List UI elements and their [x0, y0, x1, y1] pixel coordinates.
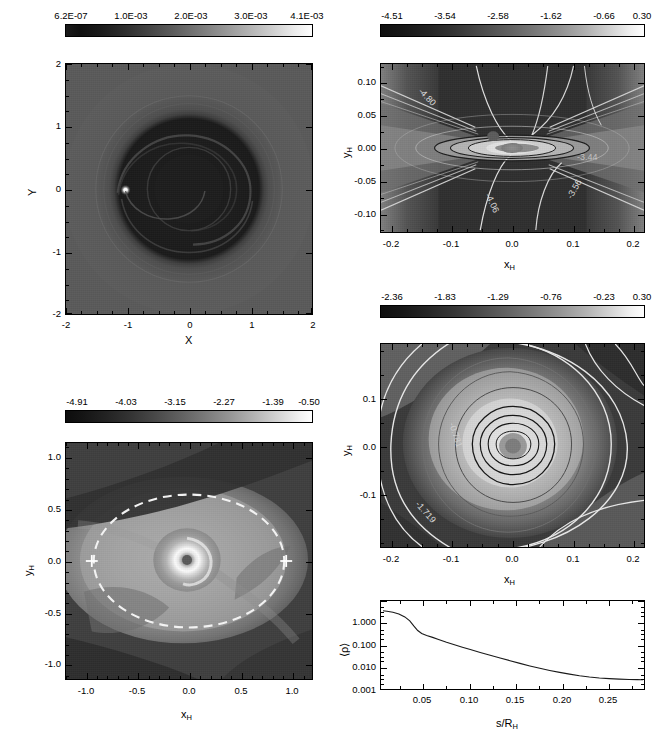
axis-tick [392, 344, 393, 350]
x-ticklabel: 0.10 [460, 695, 479, 705]
axis-tick [231, 443, 232, 446]
axis-tick [118, 443, 119, 446]
colorbar-tick: -4.91 [66, 396, 88, 407]
axis-tick [467, 344, 468, 347]
axis-tick [452, 344, 453, 350]
axis-tick [381, 132, 384, 133]
axis-tick [641, 351, 644, 352]
x-ticklabel: 0.15 [506, 695, 525, 705]
axis-tick [66, 447, 69, 448]
axis-tick [221, 64, 222, 67]
x-ticklabel: 1.0 [285, 686, 298, 696]
axis-tick [407, 64, 408, 67]
x-ticklabel: -0.2 [383, 239, 399, 249]
axis-tick [470, 601, 471, 606]
axis-tick [437, 544, 438, 547]
axis-tick [66, 96, 69, 97]
axis-tick [66, 500, 69, 501]
axis-tick [66, 443, 67, 446]
axis-tick [381, 375, 384, 376]
axis-tick [574, 344, 575, 350]
axis-tick [66, 510, 72, 511]
axis-tick [66, 479, 69, 480]
axis-tick [211, 676, 212, 679]
axis-tick [634, 541, 635, 547]
axis-tick [563, 684, 564, 689]
axis-tick [66, 313, 72, 314]
axis-tick [446, 601, 447, 604]
axis-tick [306, 510, 312, 511]
axis-tick [634, 226, 635, 232]
axis-tick [638, 495, 644, 496]
axis-tick [543, 344, 544, 347]
axis-tick [407, 344, 408, 347]
axis-tick [107, 676, 108, 679]
axis-tick [528, 344, 529, 347]
axis-tick [66, 531, 69, 532]
x-ticklabel: -0.1 [443, 239, 459, 249]
axis-tick [641, 652, 644, 653]
axis-tick [604, 229, 605, 232]
axis-tick [381, 198, 384, 199]
axis-tick [381, 447, 387, 448]
axis-tick [200, 443, 201, 446]
axis-tick [619, 64, 620, 67]
y-axis-label: yH [340, 445, 354, 456]
axis-tick [273, 443, 274, 446]
axis-tick [381, 351, 384, 352]
axis-tick [211, 443, 212, 446]
y-axis-label-sub: H [345, 445, 354, 450]
axis-tick [604, 344, 605, 347]
colorbar-tick: 6.2E-07 [54, 10, 87, 21]
axis-tick [190, 443, 191, 449]
y-ticklabel: -0.5 [29, 608, 61, 618]
axis-tick [66, 159, 69, 160]
axis-tick [452, 64, 453, 70]
axis-tick [381, 679, 384, 680]
line-density-profile [381, 601, 644, 689]
figure-canvas: 6.2E-07 1.0E-03 2.0E-03 3.0E-03 4.1E-03 [0, 0, 655, 744]
axis-tick [66, 111, 69, 112]
x-ticklabel: 2 [310, 320, 315, 330]
axis-tick [482, 64, 483, 67]
axis-tick [493, 601, 494, 604]
colorbar-tick: -0.76 [540, 291, 562, 302]
axis-tick [638, 182, 644, 183]
axis-tick [482, 544, 483, 547]
axis-tick [381, 165, 384, 166]
axis-tick [298, 311, 299, 314]
axis-tick [66, 645, 69, 646]
axis-tick [498, 229, 499, 232]
axis-tick [306, 253, 312, 254]
axis-tick [231, 676, 232, 679]
axis-tick [482, 229, 483, 232]
colorbar-tick: -2.27 [213, 396, 235, 407]
y-axis-label: Y [26, 189, 38, 196]
axis-tick [97, 311, 98, 314]
x-ticklabel: 0.0 [505, 554, 518, 564]
y-axis-label-sub: H [345, 147, 354, 152]
axis-tick [306, 313, 312, 314]
x-axis-label: X [185, 334, 192, 346]
axis-tick [381, 116, 387, 117]
axis-tick [293, 673, 294, 679]
axis-tick [242, 443, 243, 449]
axis-tick [66, 665, 72, 666]
colorbar-gradient [66, 25, 312, 36]
colorbar-tick: -2.36 [381, 291, 403, 302]
axis-tick [400, 601, 401, 604]
colorbar-tick: -1.62 [540, 10, 562, 21]
contour-label: -3.44 [577, 152, 598, 162]
axis-tick [381, 230, 384, 231]
axis-tick [641, 661, 644, 662]
axis-tick [641, 657, 644, 658]
axis-tick [236, 311, 237, 314]
axis-tick [87, 673, 88, 679]
axis-tick [589, 229, 590, 232]
panel-hill-region-wide: -4.91 -4.03 -3.15 -2.27 -1.39 -0.50 [0, 390, 330, 744]
axis-tick [81, 311, 82, 314]
axis-tick [66, 468, 69, 469]
axis-tick [306, 64, 312, 65]
y-ticklabel: -1 [41, 247, 61, 257]
y-ticklabel: 0.010 [343, 662, 376, 672]
